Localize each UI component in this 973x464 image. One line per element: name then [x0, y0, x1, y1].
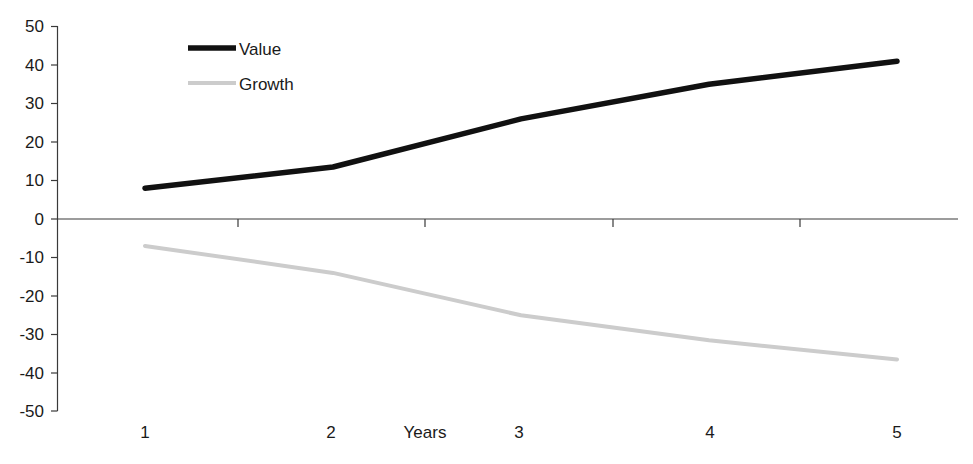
legend-label-value: Value — [239, 40, 281, 59]
x-tick-label-0: 1 — [140, 423, 149, 442]
y-tick-label-6: -10 — [19, 248, 44, 267]
y-tick-label-9: -40 — [19, 364, 44, 383]
x-tick-label-2: 3 — [514, 423, 523, 442]
line-chart: 50 40 30 20 10 0 -10 -20 -30 -40 -50 1 2… — [0, 0, 973, 464]
x-axis-title: Years — [404, 423, 447, 442]
y-tick-label-10: -50 — [19, 402, 44, 421]
legend-label-growth: Growth — [239, 75, 294, 94]
legend: Value Growth — [188, 40, 294, 94]
y-tick-label-2: 30 — [25, 94, 44, 113]
y-tick-label-5: 0 — [35, 210, 44, 229]
y-tick-label-4: 10 — [25, 171, 44, 190]
y-tick-marks — [51, 27, 58, 412]
y-tick-label-7: -20 — [19, 287, 44, 306]
x-tick-label-3: 4 — [705, 423, 714, 442]
y-tick-label-1: 40 — [25, 56, 44, 75]
chart-canvas: 50 40 30 20 10 0 -10 -20 -30 -40 -50 1 2… — [0, 0, 973, 464]
x-tick-label-4: 5 — [892, 423, 901, 442]
series-line-growth — [145, 246, 897, 360]
y-tick-label-8: -30 — [19, 325, 44, 344]
y-tick-label-0: 50 — [25, 17, 44, 36]
x-tick-marks — [238, 219, 800, 227]
x-tick-label-1: 2 — [326, 423, 335, 442]
y-tick-label-3: 20 — [25, 133, 44, 152]
